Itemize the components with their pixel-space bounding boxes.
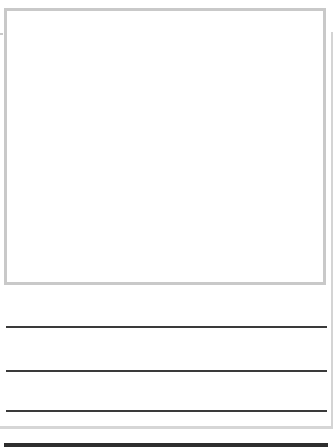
picture-box [4, 8, 326, 285]
writing-line-1 [6, 326, 327, 328]
next-page-top-edge [4, 443, 328, 447]
frame-edge-tick [0, 33, 3, 35]
writing-line-3 [6, 410, 327, 412]
writing-line-2 [6, 370, 327, 372]
